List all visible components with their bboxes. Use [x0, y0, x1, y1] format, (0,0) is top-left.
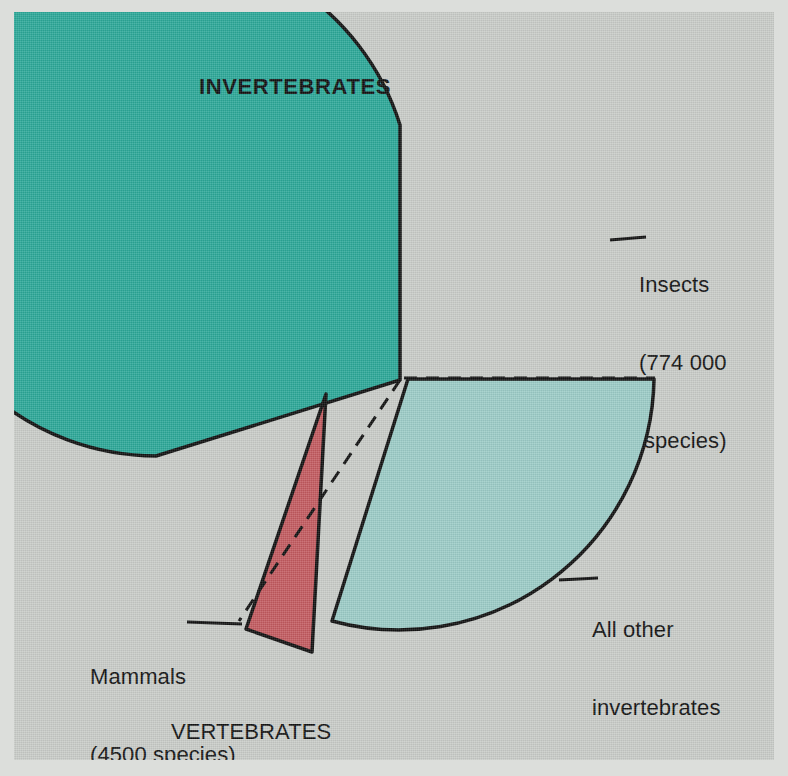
- callout-vertebrates-heading: VERTEBRATES: [169, 719, 333, 745]
- callout-insects-count: (774 000: [639, 350, 727, 376]
- pie-slice-vertebrates[interactable]: [246, 394, 326, 652]
- callout-all-other-invertebrates-name: All other: [592, 617, 769, 643]
- chart-frame: INVERTEBRATES Insects (774 000 species) …: [14, 12, 774, 760]
- callout-insects-count-2: species): [639, 428, 727, 454]
- page-title: INVERTEBRATES: [199, 74, 391, 100]
- callout-insects-name: Insects: [639, 272, 727, 298]
- callout-vertebrates: VERTEBRATES (43 000 species): [169, 667, 333, 760]
- callout-insects: Insects (774 000 species): [639, 220, 727, 506]
- callout-all-other-invertebrates-name-2: invertebrates: [592, 695, 769, 721]
- callout-all-other-invertebrates: All other invertebrates (173 000 species…: [592, 565, 769, 760]
